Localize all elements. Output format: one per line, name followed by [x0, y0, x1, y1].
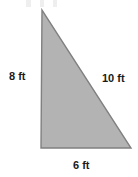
label-vertical-leg: 8 ft — [9, 70, 26, 82]
right-triangle-shape — [0, 0, 138, 177]
geometry-figure: 8 ft 10 ft 6 ft — [0, 0, 138, 177]
label-hypotenuse: 10 ft — [102, 72, 125, 84]
label-horizontal-leg: 6 ft — [73, 159, 90, 171]
